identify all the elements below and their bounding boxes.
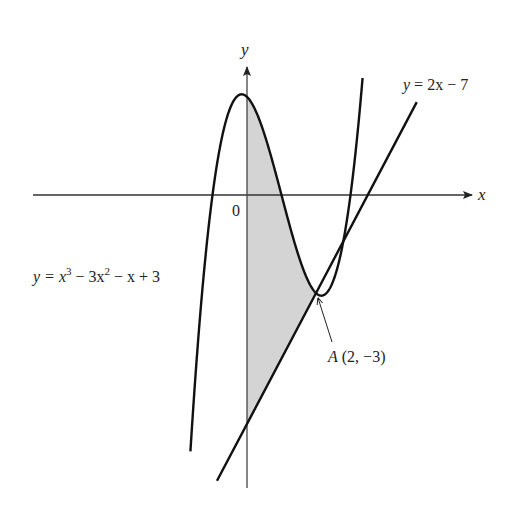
shaded-region [247,97,316,424]
point-A-pointer [318,298,332,342]
cubic-equation-label: y = x3 − 3x2 − x + 3 [31,265,160,286]
cubic-eq-tail: − x + 3 [110,268,160,285]
cubic-eq-mid: − 3x [72,268,105,285]
origin-label: 0 [232,202,240,219]
point-A-label: A (2, −3) [327,348,385,366]
cubic-eq-prefix: y = x [31,268,66,286]
y-axis-label: y [239,40,249,59]
line-equation-label: y = 2x − 7 [401,76,468,94]
x-axis-label: x [477,185,486,204]
graph-figure: y x 0 y = 2x − 7 y = x3 − 3x2 − x + 3 A … [0,0,513,515]
